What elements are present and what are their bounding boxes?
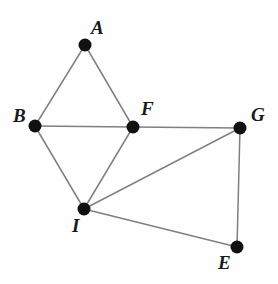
vertex-label-e: E xyxy=(218,253,231,272)
geometry-diagram-canvas: ABFGIE xyxy=(0,0,278,284)
edge-g-e xyxy=(237,128,240,247)
diagram-graphics xyxy=(0,0,278,284)
edge-a-f xyxy=(85,45,133,127)
vertex-layer xyxy=(29,39,247,254)
vertex-point-g xyxy=(234,122,247,135)
edge-f-g xyxy=(133,127,240,128)
edge-b-i xyxy=(35,126,84,209)
edge-layer xyxy=(35,45,240,247)
vertex-label-f: F xyxy=(141,99,154,118)
vertex-point-b xyxy=(29,120,42,133)
vertex-point-i xyxy=(78,203,91,216)
vertex-label-a: A xyxy=(91,18,104,37)
vertex-label-g: G xyxy=(251,105,265,124)
vertex-point-a xyxy=(79,39,92,52)
vertex-point-f xyxy=(127,121,140,134)
edge-a-b xyxy=(35,45,85,126)
edge-b-f xyxy=(35,126,133,127)
vertex-label-i: I xyxy=(72,216,79,235)
edge-i-e xyxy=(84,209,237,247)
vertex-label-b: B xyxy=(13,106,26,125)
vertex-point-e xyxy=(231,241,244,254)
